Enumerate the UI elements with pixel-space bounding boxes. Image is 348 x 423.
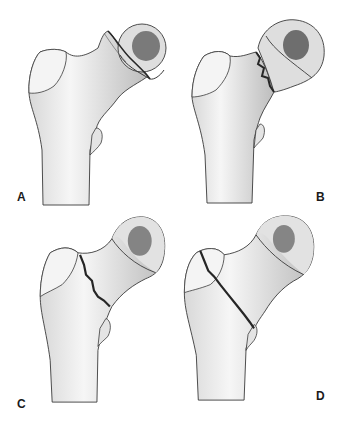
femur-illustration-b xyxy=(174,0,348,211)
panel-label-b: B xyxy=(316,190,325,204)
panel-d-intertrochanteric-fracture: D xyxy=(174,211,348,422)
panel-label-c: C xyxy=(17,397,26,411)
panel-b-transcervical-fracture: B xyxy=(174,0,348,211)
femur-illustration-c xyxy=(0,211,174,422)
panel-label-d: D xyxy=(316,389,325,403)
panel-c-basicervical-fracture: C xyxy=(0,211,174,422)
panel-label-a: A xyxy=(17,190,26,204)
femur-illustration-a xyxy=(0,0,174,211)
panel-a-subcapital-fracture: A xyxy=(0,0,174,211)
